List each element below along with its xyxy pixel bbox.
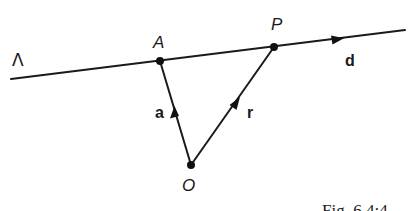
figure-caption: Fig. 6.4:4 — [322, 201, 388, 211]
vector-line-diagram: Λ d a r A P O Fig. 6.4:4 — [0, 0, 419, 211]
vector-a-arrow-icon — [170, 106, 179, 119]
point-p-label: P — [271, 15, 283, 34]
direction-arrow-icon — [331, 35, 344, 44]
point-p-dot — [270, 43, 278, 51]
point-a-label: A — [152, 33, 164, 52]
point-a-dot — [156, 57, 164, 65]
vector-d-label: d — [345, 52, 355, 69]
line-lambda-label: Λ — [12, 50, 24, 70]
vector-a-label: a — [155, 104, 164, 121]
point-o-dot — [187, 161, 195, 169]
point-o-label: O — [182, 176, 195, 195]
vector-r-label: r — [247, 104, 253, 121]
